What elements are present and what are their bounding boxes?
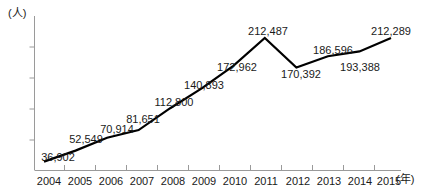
x-tick-label-2005: 2005 — [68, 176, 92, 187]
x-tick-label-2004: 2004 — [37, 176, 61, 187]
data-label-2011: 212,487 — [248, 26, 288, 37]
x-tick-label-2009: 2009 — [192, 176, 216, 187]
data-label-2015: 212,289 — [371, 26, 411, 37]
y-axis-unit-label: (人) — [8, 8, 26, 19]
data-label-2008: 112,800 — [155, 97, 194, 108]
data-label-2006: 70,914 — [100, 124, 134, 135]
x-tick-label-2012: 2012 — [286, 176, 310, 187]
x-tick-label-2011: 2011 — [254, 176, 278, 187]
x-tick-label-2010: 2010 — [223, 176, 247, 187]
data-label-2014: 193,388 — [340, 62, 380, 73]
data-label-2005: 52,549 — [69, 134, 103, 145]
x-tick-label-2013: 2013 — [317, 176, 341, 187]
x-tick-label-2015: 2015 — [377, 176, 401, 187]
data-label-2009: 140,893 — [184, 80, 224, 91]
data-label-2010: 172,962 — [217, 62, 257, 73]
x-tick-label-2014: 2014 — [348, 176, 372, 187]
data-label-2012: 170,392 — [281, 69, 321, 80]
data-label-2007: 81,651 — [126, 114, 160, 125]
x-tick-label-2008: 2008 — [161, 176, 185, 187]
x-tick-label-2007: 2007 — [130, 176, 154, 187]
line-chart: (人) (年) 2004 2005 2006 2007 2008 2009 20… — [0, 0, 423, 190]
data-label-2004: 36,902 — [41, 152, 75, 163]
x-tick-label-2006: 2006 — [99, 176, 123, 187]
data-label-2013: 186,596 — [313, 45, 353, 56]
